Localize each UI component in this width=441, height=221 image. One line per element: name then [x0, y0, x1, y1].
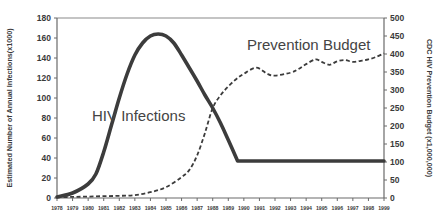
x-tick-label: 1982: [114, 205, 126, 211]
x-tick-label: 1981: [98, 205, 110, 211]
right-tick-label: 500: [390, 13, 404, 23]
x-tick-label: 1997: [347, 205, 359, 211]
x-tick-label: 1984: [145, 205, 157, 211]
x-tick-label: 1995: [316, 205, 328, 211]
x-tick-label: 1983: [129, 205, 141, 211]
x-tick-label: 1986: [176, 205, 188, 211]
right-tick-label: 200: [390, 121, 404, 131]
left-tick-label: 0: [46, 193, 51, 203]
right-tick-label: 150: [390, 139, 404, 149]
x-tick-label: 1988: [207, 205, 219, 211]
left-tick-label: 180: [37, 13, 51, 23]
x-tick-label: 1987: [191, 205, 203, 211]
left-tick-label: 40: [42, 153, 52, 163]
x-tick-label: 1991: [254, 205, 266, 211]
left-tick-label: 20: [42, 173, 52, 183]
left-tick-label: 60: [42, 133, 52, 143]
right-tick-label: 250: [390, 103, 404, 113]
x-axis-ticks: 1978197919801981198219831984198519861987…: [51, 198, 390, 211]
left-tick-label: 140: [37, 53, 51, 63]
right-tick-label: 400: [390, 49, 404, 59]
right-tick-label: 100: [390, 157, 404, 167]
left-tick-label: 120: [37, 73, 51, 83]
left-axis-title: Estimated Number of Annual Infections(x1…: [5, 28, 14, 188]
x-tick-label: 1999: [378, 205, 390, 211]
left-tick-label: 160: [37, 33, 51, 43]
right-tick-label: 450: [390, 31, 404, 41]
x-tick-label: 1998: [363, 205, 375, 211]
x-tick-label: 1979: [67, 205, 79, 211]
right-axis-ticks: 050100150200250300350400450500: [384, 13, 404, 203]
x-tick-label: 1990: [238, 205, 250, 211]
left-tick-label: 80: [42, 113, 52, 123]
left-tick-label: 100: [37, 93, 51, 103]
prevention-budget-label: Prevention Budget: [247, 36, 371, 53]
right-tick-label: 350: [390, 67, 404, 77]
right-tick-label: 300: [390, 85, 404, 95]
right-tick-label: 0: [390, 193, 395, 203]
x-tick-label: 1989: [223, 205, 235, 211]
left-axis-ticks: 020406080100120140160180: [37, 13, 57, 203]
x-tick-label: 1980: [82, 205, 94, 211]
chart: 020406080100120140160180 050100150200250…: [0, 0, 441, 221]
hiv-infections-label: HIV Infections: [92, 107, 185, 124]
x-tick-label: 1978: [51, 205, 63, 211]
x-tick-label: 1992: [269, 205, 281, 211]
x-tick-label: 1993: [285, 205, 297, 211]
right-axis-title: CDC HIV Prevention Budget (x1,000,000): [425, 39, 434, 178]
right-tick-label: 50: [390, 175, 400, 185]
x-tick-label: 1996: [332, 205, 344, 211]
x-tick-label: 1985: [160, 205, 172, 211]
x-tick-label: 1994: [300, 205, 312, 211]
